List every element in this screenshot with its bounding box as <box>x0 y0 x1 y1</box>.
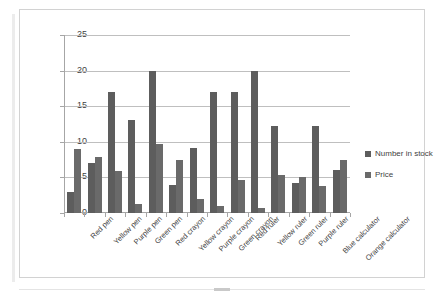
bottom-center-artifact <box>214 288 230 291</box>
legend-label: Price <box>375 170 393 179</box>
bar <box>135 204 142 213</box>
bar <box>292 183 299 213</box>
bar-group <box>146 35 166 213</box>
bar-group <box>187 35 207 213</box>
bar-group <box>125 35 145 213</box>
bar-group <box>309 35 329 213</box>
bar-group <box>207 35 227 213</box>
bar <box>67 192 74 213</box>
bar <box>278 175 285 213</box>
bar <box>169 185 176 213</box>
bar-group <box>105 35 125 213</box>
bar <box>149 71 156 213</box>
bar <box>312 126 319 213</box>
x-tick-mark <box>350 213 351 217</box>
legend-label: Number in stock <box>375 149 433 158</box>
bar <box>210 92 217 213</box>
bar <box>258 208 265 213</box>
left-edge-artifact <box>12 14 15 282</box>
bar-group <box>227 35 247 213</box>
legend-swatch-icon <box>365 172 371 178</box>
x-axis-labels: Red penYellow penPurple penGreen penRed … <box>64 215 350 285</box>
bar <box>197 199 204 213</box>
bar <box>156 144 163 213</box>
bar-group <box>84 35 104 213</box>
bar <box>128 120 135 213</box>
bar <box>299 177 306 213</box>
legend-swatch-icon <box>365 151 371 157</box>
legend-item: Price <box>365 170 437 179</box>
bar <box>74 149 81 213</box>
bar <box>333 170 340 213</box>
bar <box>238 180 245 213</box>
bar <box>95 157 102 213</box>
bar-group <box>166 35 186 213</box>
bar-group <box>268 35 288 213</box>
bar <box>271 126 278 213</box>
bar-group <box>289 35 309 213</box>
chart-frame: 0510152025 Red penYellow penPurple penGr… <box>19 9 425 278</box>
bar <box>340 160 347 213</box>
bars-layer <box>64 35 350 213</box>
bar-group <box>64 35 84 213</box>
bar <box>176 160 183 213</box>
bar <box>108 92 115 213</box>
bar <box>217 206 224 213</box>
x-axis-label: Red pen <box>90 215 116 241</box>
bar <box>190 148 197 213</box>
legend-item: Number in stock <box>365 149 437 158</box>
bar <box>251 71 258 213</box>
bar <box>319 186 326 213</box>
bar <box>115 171 122 213</box>
bar <box>231 92 238 213</box>
bar-group <box>248 35 268 213</box>
chart-legend: Number in stockPrice <box>365 149 437 191</box>
bar-group <box>330 35 350 213</box>
bar <box>88 163 95 213</box>
